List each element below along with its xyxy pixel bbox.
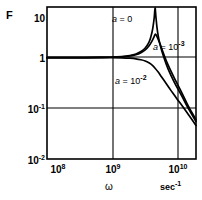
curve-annotation-a0: a = 0 <box>112 14 132 24</box>
x-axis-units: sec-1 <box>160 180 181 192</box>
curve-annotation-a1e-2: a = 10-2 <box>115 74 147 86</box>
figure-log-log-frequency-response: F 10 1 10-1 10-2 a = 0 a = 10-3 a = 10-2 <box>0 0 202 200</box>
x-tick-label: 1010 <box>169 163 188 175</box>
curve-annotation-a1e-3: a = 10-3 <box>153 40 185 52</box>
x-axis-tick-labels: 108 109 1010 <box>0 163 202 179</box>
x-axis-title: ω <box>105 182 113 192</box>
x-tick-label: 108 <box>50 163 65 175</box>
x-tick-label: 109 <box>105 163 120 175</box>
